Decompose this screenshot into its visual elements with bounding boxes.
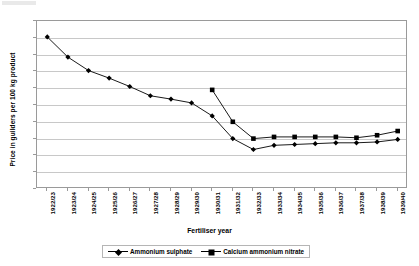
data-point-diamond xyxy=(148,93,153,98)
data-point-square xyxy=(354,135,359,140)
data-point-diamond xyxy=(86,68,91,73)
x-tick-label: 1923/24 xyxy=(70,192,77,214)
y-tick-mark xyxy=(33,188,36,189)
data-point-square xyxy=(292,135,297,140)
data-point-diamond xyxy=(354,140,359,145)
data-point-diamond xyxy=(374,139,379,144)
data-point-diamond xyxy=(271,143,276,148)
x-tick-mark xyxy=(46,188,47,191)
x-tick-mark xyxy=(108,188,109,191)
x-tick-mark xyxy=(397,188,398,191)
y-tick-mark xyxy=(33,87,36,88)
x-tick-label: 1930/31 xyxy=(214,192,221,214)
y-tick-mark xyxy=(33,154,36,155)
x-tick-mark xyxy=(149,188,150,191)
x-tick-mark xyxy=(211,188,212,191)
legend-item-calcium-ammonium-nitrate: Calcium ammonium nitrate xyxy=(201,247,304,255)
y-axis-title: Price in guilders per 100 kg product xyxy=(9,30,16,190)
x-tick-mark xyxy=(314,188,315,191)
series-layer xyxy=(37,21,408,189)
square-marker-icon xyxy=(201,247,221,255)
chart-legend: Ammonium sulphate Calcium ammonium nitra… xyxy=(102,245,310,258)
y-tick-mark xyxy=(33,121,36,122)
legend-item-ammonium-sulphate: Ammonium sulphate xyxy=(108,247,192,255)
data-point-square xyxy=(231,120,236,125)
data-point-square xyxy=(272,135,277,140)
x-tick-mark xyxy=(129,188,130,191)
data-point-diamond xyxy=(251,147,256,152)
y-tick-mark xyxy=(33,37,36,38)
data-point-diamond xyxy=(292,142,297,147)
x-tick-mark xyxy=(376,188,377,191)
x-tick-label: 1937/38 xyxy=(358,192,365,214)
x-tick-label: 1924/25 xyxy=(90,192,97,214)
y-tick-mark xyxy=(33,171,36,172)
x-tick-mark xyxy=(355,188,356,191)
data-point-square xyxy=(251,136,256,141)
x-tick-mark xyxy=(170,188,171,191)
x-tick-label: 1925/26 xyxy=(111,192,118,214)
data-point-diamond xyxy=(107,76,112,81)
x-tick-label: 1927/28 xyxy=(152,192,159,214)
x-tick-mark xyxy=(252,188,253,191)
x-tick-mark xyxy=(273,188,274,191)
data-point-square xyxy=(395,129,400,134)
y-tick-mark xyxy=(33,20,36,21)
x-tick-label: 1936/37 xyxy=(337,192,344,214)
y-tick-mark xyxy=(33,104,36,105)
data-point-diamond xyxy=(313,141,318,146)
y-tick-mark xyxy=(33,138,36,139)
x-tick-label: 1935/36 xyxy=(317,192,324,214)
data-point-diamond xyxy=(127,84,132,89)
x-tick-label: 1926/27 xyxy=(131,192,138,214)
x-tick-label: 1934/35 xyxy=(296,192,303,214)
x-tick-label: 1938/39 xyxy=(379,192,386,214)
y-tick-mark xyxy=(33,54,36,55)
x-tick-mark xyxy=(191,188,192,191)
diamond-marker-icon xyxy=(108,247,128,255)
x-tick-label: 1931/32 xyxy=(234,192,241,214)
legend-label: Ammonium sulphate xyxy=(130,248,192,255)
y-tick-mark xyxy=(33,70,36,71)
data-point-square xyxy=(334,135,339,140)
x-tick-label: 1929/30 xyxy=(193,192,200,214)
x-tick-label: 1933/34 xyxy=(276,192,283,214)
data-point-diamond xyxy=(395,137,400,142)
x-tick-mark xyxy=(88,188,89,191)
data-point-square xyxy=(210,88,215,93)
data-point-diamond xyxy=(168,97,173,102)
x-tick-mark xyxy=(232,188,233,191)
data-point-diamond xyxy=(189,100,194,105)
data-point-square xyxy=(313,135,318,140)
image-artifact xyxy=(2,1,36,5)
series-line-diamond xyxy=(47,37,397,150)
x-tick-label: 1932/33 xyxy=(255,192,262,214)
x-tick-mark xyxy=(294,188,295,191)
x-tick-label: 1939/40 xyxy=(399,192,406,214)
data-point-square xyxy=(375,133,380,138)
chart-container: Price in guilders per 100 kg product 024… xyxy=(0,0,419,266)
x-tick-mark xyxy=(335,188,336,191)
x-axis-title: Fertiliser year xyxy=(0,227,419,234)
x-tick-mark xyxy=(67,188,68,191)
x-tick-label: 1922/23 xyxy=(49,192,56,214)
plot-area xyxy=(36,20,407,188)
series-line-square xyxy=(212,90,398,139)
x-tick-label: 1928/29 xyxy=(173,192,180,214)
data-point-diamond xyxy=(333,140,338,145)
legend-label: Calcium ammonium nitrate xyxy=(223,248,304,255)
